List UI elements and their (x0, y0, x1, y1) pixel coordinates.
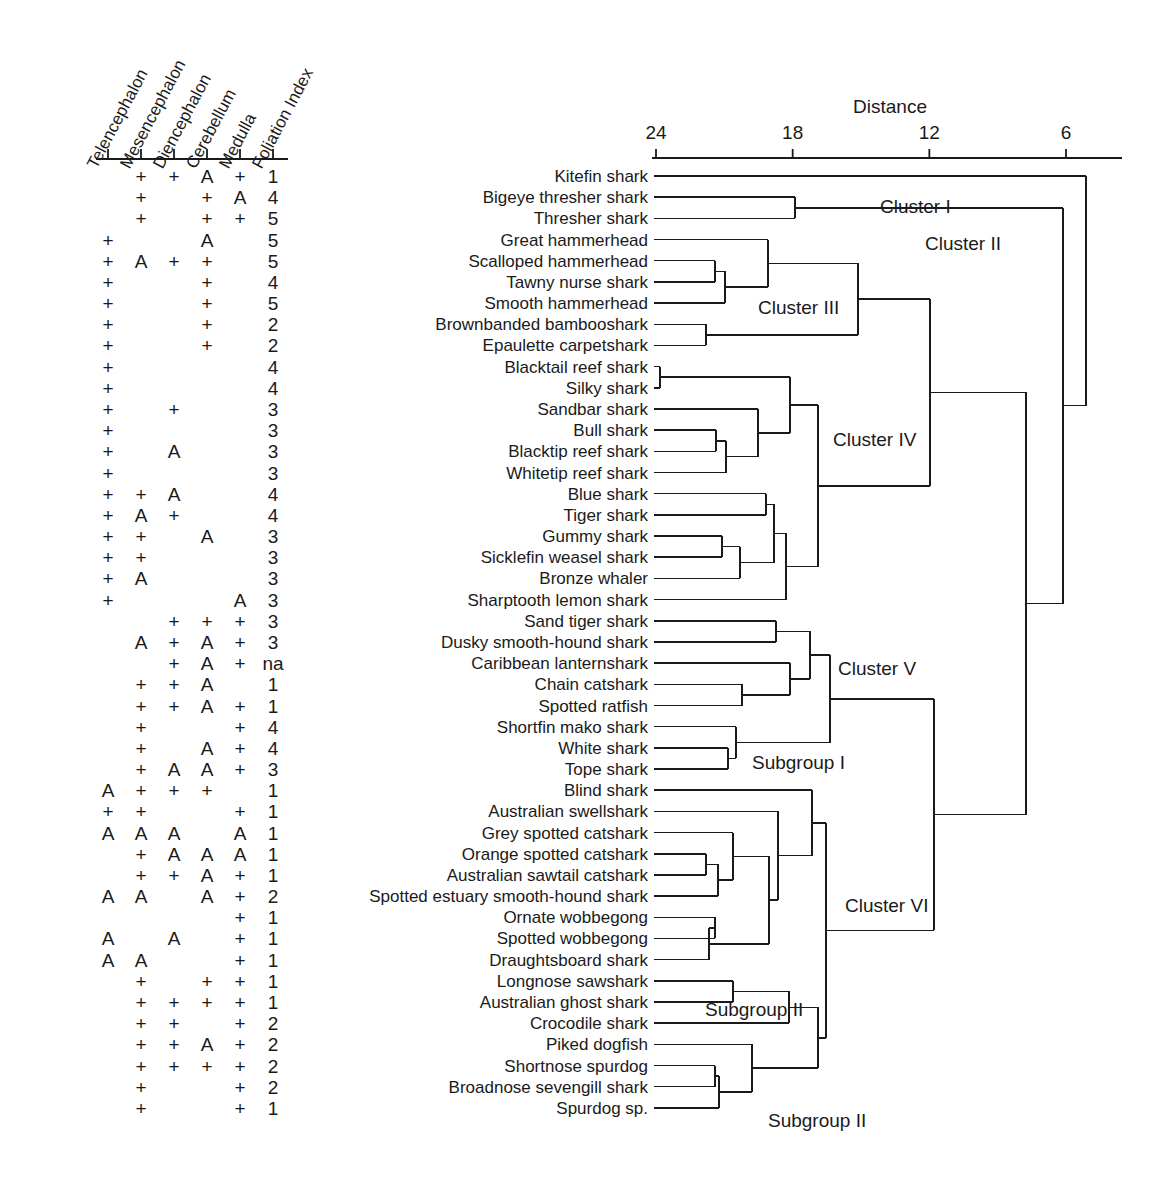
cluster-label: Subgroup II (705, 999, 803, 1021)
dendrogram-tree (0, 0, 1152, 1189)
cluster-label: Cluster V (838, 658, 916, 680)
cluster-label: Cluster III (758, 297, 839, 319)
figure-root: TelencephalonMesencephalonDiencephalonCe… (0, 0, 1152, 1189)
cluster-label: Cluster VI (845, 895, 928, 917)
cluster-label: Subgroup II (768, 1110, 866, 1132)
cluster-label: Subgroup I (752, 752, 845, 774)
cluster-label: Cluster I (880, 196, 951, 218)
cluster-label: Cluster IV (833, 429, 916, 451)
cluster-label: Cluster II (925, 233, 1001, 255)
